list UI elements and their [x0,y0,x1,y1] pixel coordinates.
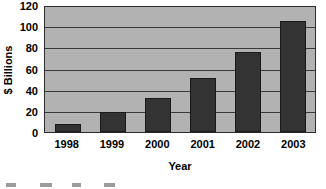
y-axis-tick-labels: 120 100 80 60 40 20 0 [14,0,41,140]
bar-slot [270,7,315,132]
y-tick-label: 120 [20,1,38,12]
bar-slot [225,7,270,132]
x-tick-label-2001: 2001 [180,136,225,154]
scan-artifact [72,183,81,187]
bar-2001 [190,78,216,132]
y-tick-label: 20 [26,106,38,117]
scan-artifact [104,183,115,187]
x-tick-label-2003: 2003 [271,136,316,154]
y-tick-label: 100 [20,22,38,33]
bar-2003 [280,21,306,132]
x-tick-label-2002: 2002 [225,136,270,154]
x-tick-label-2000: 2000 [135,136,180,154]
x-axis-title: Year [44,160,316,172]
x-tick-label-1999: 1999 [89,136,134,154]
bar-1999 [100,112,126,132]
bar-slot [90,7,135,132]
y-tick-label: 0 [32,128,38,139]
bar-slot [135,7,180,132]
scan-artifact [40,183,52,187]
x-axis-tick-labels: 1998 1999 2000 2001 2002 2003 [44,136,316,154]
bar-slot [45,7,90,132]
bar-series [45,7,315,132]
bar-2000 [145,98,171,132]
bar-chart: $ Billions 120 100 80 60 40 20 0 [0,0,326,189]
scan-artifact-strip [0,182,326,189]
x-tick-label-1998: 1998 [44,136,89,154]
bar-slot [180,7,225,132]
y-tick-label: 40 [26,85,38,96]
y-axis-title-text: $ Billions [2,45,14,94]
y-tick-label: 60 [26,64,38,75]
bar-2002 [235,52,261,132]
bar-1998 [55,124,81,132]
plot-area [44,6,316,133]
scan-artifact [6,183,16,187]
y-tick-label: 80 [26,43,38,54]
